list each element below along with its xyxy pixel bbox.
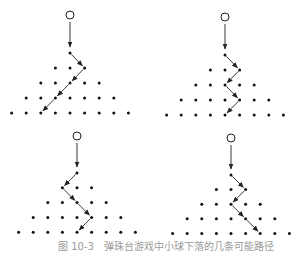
peg <box>134 231 137 234</box>
peg <box>259 217 262 220</box>
peg <box>224 84 227 87</box>
ball-icon <box>227 134 235 142</box>
peg <box>76 201 79 204</box>
peg <box>54 82 57 85</box>
peg <box>83 112 86 115</box>
peg <box>105 231 108 234</box>
peg <box>253 114 256 117</box>
peg <box>54 112 57 115</box>
peg <box>215 203 218 206</box>
peg <box>194 99 197 102</box>
panel-top-right <box>165 13 285 117</box>
peg <box>273 232 276 235</box>
peg <box>105 216 108 219</box>
peg <box>61 201 64 204</box>
peg <box>69 82 72 85</box>
peg <box>186 232 189 235</box>
peg <box>273 217 276 220</box>
peg <box>76 231 79 234</box>
peg <box>46 231 49 234</box>
path-arrow <box>226 56 237 67</box>
peg <box>224 69 227 72</box>
peg <box>61 186 64 189</box>
peg <box>39 112 42 115</box>
ball-icon <box>73 132 81 140</box>
peg <box>267 114 270 117</box>
peg <box>238 69 241 72</box>
peg <box>90 216 93 219</box>
peg <box>253 99 256 102</box>
path-arrow <box>65 174 76 185</box>
peg <box>267 99 270 102</box>
peg <box>209 69 212 72</box>
peg <box>25 97 28 100</box>
peg <box>282 114 285 117</box>
peg <box>69 52 72 55</box>
peg <box>54 97 57 100</box>
peg <box>200 217 203 220</box>
peg <box>230 217 233 220</box>
peg <box>165 114 168 117</box>
peg <box>98 112 101 115</box>
path-arrow <box>79 219 90 230</box>
peg <box>194 114 197 117</box>
peg <box>10 112 13 115</box>
peg <box>17 231 20 234</box>
path-arrow <box>232 206 243 217</box>
peg <box>215 217 218 220</box>
peg <box>46 201 49 204</box>
peg <box>112 112 115 115</box>
peg <box>230 174 233 177</box>
path-arrow <box>227 101 238 112</box>
peg <box>209 99 212 102</box>
path-arrow <box>226 86 237 97</box>
peg <box>119 231 122 234</box>
path-arrow <box>227 71 238 82</box>
peg <box>76 216 79 219</box>
peg <box>105 201 108 204</box>
peg <box>25 112 28 115</box>
peg <box>83 82 86 85</box>
peg <box>259 203 262 206</box>
ball-icon <box>66 11 74 19</box>
peg <box>224 99 227 102</box>
path-arrow <box>43 99 54 110</box>
peg <box>180 114 183 117</box>
peg <box>230 188 233 191</box>
peg <box>98 97 101 100</box>
peg <box>215 232 218 235</box>
peg <box>209 114 212 117</box>
panels <box>10 11 291 235</box>
peg <box>244 232 247 235</box>
peg <box>200 232 203 235</box>
peg <box>83 97 86 100</box>
peg <box>224 54 227 57</box>
peg <box>76 186 79 189</box>
panel-bottom-left <box>17 132 137 234</box>
peg <box>244 217 247 220</box>
peg <box>119 216 122 219</box>
peg <box>224 114 227 117</box>
path-arrow <box>247 220 258 231</box>
peg <box>244 188 247 191</box>
peg <box>230 232 233 235</box>
peg <box>90 201 93 204</box>
peg <box>238 114 241 117</box>
peg <box>61 216 64 219</box>
peg <box>69 97 72 100</box>
ball-icon <box>221 13 229 21</box>
panel-top-left <box>10 11 130 115</box>
panel-bottom-right <box>171 134 291 235</box>
path-arrow <box>64 189 75 200</box>
peg <box>39 97 42 100</box>
peg <box>32 216 35 219</box>
peg <box>69 112 72 115</box>
peg <box>180 99 183 102</box>
peg <box>32 231 35 234</box>
figure-caption: 图 10-3 弹珠台游戏中小球下落的几条可能路径 <box>58 241 298 255</box>
path-arrow <box>233 191 244 202</box>
peg <box>238 99 241 102</box>
path-arrow <box>78 204 89 215</box>
peg <box>83 67 86 70</box>
